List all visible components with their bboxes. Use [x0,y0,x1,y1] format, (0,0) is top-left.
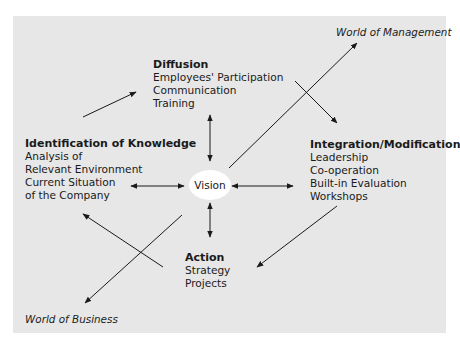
action-title: Action [185,251,230,264]
integration-title: Integration/Modification [310,138,460,151]
arrow-to-action [257,206,337,267]
integration-item: Co-operation [310,164,460,177]
integration-item: Leadership [310,151,460,164]
arrow-to-diffusion [83,92,136,117]
arrow-to-integration [295,81,337,123]
vision-node: Vision [189,170,231,200]
diffusion-item: Employees' Participation [153,71,283,84]
diffusion-title: Diffusion [153,58,283,71]
integration-node: Integration/Modification Leadership Co-o… [310,138,460,203]
integration-item: Workshops [310,190,460,203]
action-item: Projects [185,277,230,290]
identification-item: Relevant Environment [25,163,196,176]
action-node: Action Strategy Projects [185,251,230,290]
identification-item: of the Company [25,189,196,202]
diffusion-node: Diffusion Employees' Participation Commu… [153,58,283,110]
world-of-business-label: World of Business [25,313,118,325]
world-of-management-label: World of Management [336,26,451,38]
arrow-to-identification [83,214,163,267]
vision-label: Vision [194,179,226,191]
action-item: Strategy [185,264,230,277]
identification-item: Current Situation [25,176,196,189]
identification-node: Identification of Knowledge Analysis of … [25,137,196,202]
diffusion-item: Communication [153,84,283,97]
integration-item: Built-in Evaluation [310,177,460,190]
arrow-to-world-of-business [85,215,182,303]
identification-title: Identification of Knowledge [25,137,196,150]
identification-item: Analysis of [25,150,196,163]
diffusion-item: Training [153,97,283,110]
